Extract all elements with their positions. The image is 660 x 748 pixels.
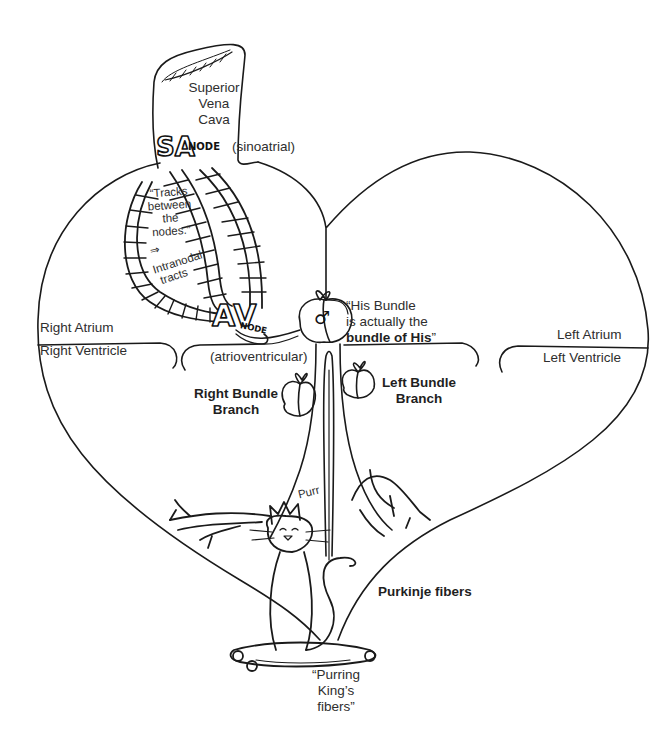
right-atrium-label: Right Atrium — [40, 320, 114, 336]
crown — [270, 502, 300, 524]
sa-node-note: (sinoatrial) — [232, 139, 295, 155]
purring-king-cat — [231, 502, 376, 671]
purring-kings-fibers-label: “Purring King’s fibers” — [306, 667, 366, 715]
left-atrium-label: Left Atrium — [557, 327, 622, 343]
sa-node-word: NODE — [188, 141, 220, 152]
av-node-note: (atrioventricular) — [210, 349, 308, 365]
his-bundle-line1: “His Bundle — [346, 298, 416, 314]
heart-drawing: SA AV — [0, 0, 660, 748]
his-bundle-line2: is actually the — [346, 314, 428, 330]
male-symbol-icon: ♂ — [314, 307, 330, 328]
left-ventricle-label: Left Ventricle — [543, 350, 621, 366]
heart-conduction-diagram: SA AV — [0, 0, 660, 748]
his-bundle-line3: bundle of His” — [346, 330, 436, 346]
purkinje-fibers-label: Purkinje fibers — [378, 584, 472, 600]
right-bundle-gift — [282, 374, 315, 416]
right-ventricle-label: Right Ventricle — [40, 343, 127, 359]
purkinje-roots — [170, 470, 430, 548]
left-bundle-gift — [342, 362, 374, 398]
svc-label: Superior Vena Cava — [184, 80, 244, 128]
tracks-note: “Tracks between the nodes.” — [140, 184, 199, 240]
right-bundle-branch-label: Right Bundle Branch — [190, 386, 282, 418]
left-bundle-branch-label: Left Bundle Branch — [376, 375, 462, 407]
heart-outline — [38, 152, 648, 640]
